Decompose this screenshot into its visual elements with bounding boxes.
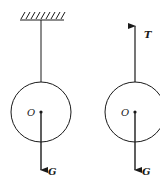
tension-label: T — [144, 29, 153, 40]
weight-label: G — [48, 166, 57, 177]
weight-label: G — [142, 166, 151, 177]
center-label: O — [27, 107, 35, 118]
ball-circle — [105, 82, 160, 142]
right-figure: T O G — [105, 26, 160, 177]
left-figure: O G — [11, 12, 71, 177]
free-body-diagram: O G T O G — [0, 0, 160, 185]
ceiling-support-icon — [20, 12, 65, 20]
center-label: O — [121, 107, 129, 118]
